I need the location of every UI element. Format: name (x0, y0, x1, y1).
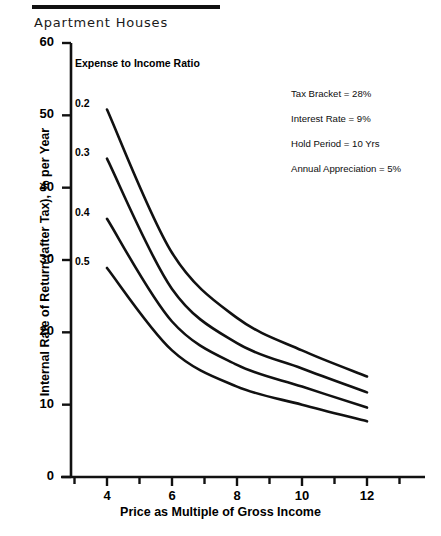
y-axis-title: Internal Rate of Return (after Tax), % p… (38, 122, 52, 402)
annotation-4: Annual Appreciation = 5% (291, 163, 401, 174)
curve-label-0.2: 0.2 (75, 97, 90, 109)
curve-label-0.5: 0.5 (75, 255, 90, 267)
y-tick-label-50: 50 (20, 106, 54, 121)
y-axis-ticks (62, 43, 71, 477)
data-curves (107, 110, 367, 422)
x-tick-label-6: 6 (157, 488, 187, 503)
curve-0.3 (107, 159, 367, 393)
chart-page: Apartment Houses 0102030405060 4681012 I… (0, 0, 441, 536)
axes (61, 43, 425, 477)
curve-label-0.3: 0.3 (75, 146, 90, 158)
x-axis-title: Price as Multiple of Gross Income (0, 505, 441, 519)
annotation-1: Tax Bracket = 28% (291, 88, 371, 99)
x-tick-label-10: 10 (287, 488, 317, 503)
curve-label-0.4: 0.4 (75, 206, 90, 218)
x-axis-ticks (75, 477, 400, 486)
y-tick-label-0: 0 (20, 468, 54, 483)
chart-plot-area (0, 0, 441, 536)
x-tick-label-12: 12 (352, 488, 382, 503)
annotation-2: Interest Rate = 9% (291, 113, 371, 124)
x-tick-label-4: 4 (92, 488, 122, 503)
legend-title: Expense to Income Ratio (75, 57, 200, 69)
x-tick-label-8: 8 (222, 488, 252, 503)
annotation-3: Hold Period = 10 Yrs (291, 138, 380, 149)
y-tick-label-60: 60 (20, 34, 54, 49)
